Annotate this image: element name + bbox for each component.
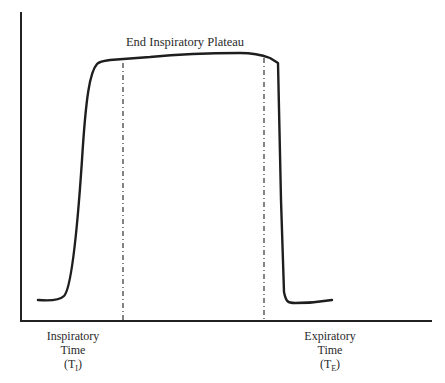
inspiratory-symbol-close: ) xyxy=(78,357,82,371)
pressure-waveform xyxy=(38,53,332,303)
inspiratory-symbol-open: (T xyxy=(64,357,75,371)
inspiratory-label-line2: Time xyxy=(38,343,108,357)
inspiratory-time-label: Inspiratory Time (TI) xyxy=(38,329,108,371)
waveform-canvas xyxy=(0,0,445,383)
inspiratory-symbol: (TI) xyxy=(38,357,108,371)
expiratory-symbol-close: ) xyxy=(336,357,340,371)
expiratory-symbol-open: (T xyxy=(320,357,331,371)
ventilation-waveform-diagram: End Inspiratory Plateau Inspiratory Time… xyxy=(0,0,445,383)
expiratory-label-line1: Expiratory xyxy=(295,329,365,343)
expiratory-time-label: Expiratory Time (TE) xyxy=(295,329,365,371)
expiratory-label-line2: Time xyxy=(295,343,365,357)
end-inspiratory-plateau-label: End Inspiratory Plateau xyxy=(125,35,245,49)
expiratory-symbol: (TE) xyxy=(295,357,365,371)
inspiratory-label-line1: Inspiratory xyxy=(38,329,108,343)
